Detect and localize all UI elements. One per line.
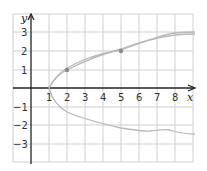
x-tick: 7 (154, 92, 160, 103)
upper-curve-a (49, 32, 195, 88)
graph: 1 2 3 4 5 6 7 8 3 2 1 −1 −2 −3 y x (0, 0, 207, 171)
y-axis-label: y (20, 12, 28, 25)
curves (49, 32, 195, 134)
point-2-1 (65, 68, 69, 72)
y-tick: −2 (13, 120, 28, 131)
x-tick-labels: 1 2 3 4 5 6 7 8 (46, 92, 178, 103)
x-tick: 2 (64, 92, 70, 103)
y-tick: 3 (21, 27, 27, 38)
x-tick: 5 (118, 92, 124, 103)
y-tick: 1 (21, 65, 27, 76)
x-axis-label: x (187, 91, 194, 104)
x-tick: 6 (136, 92, 142, 103)
x-tick: 3 (82, 92, 88, 103)
x-tick: 8 (172, 92, 178, 103)
y-tick: −3 (13, 139, 28, 150)
y-tick: 2 (21, 46, 27, 57)
data-points (65, 49, 123, 72)
y-tick: −1 (13, 102, 28, 113)
x-tick: 1 (46, 92, 52, 103)
point-5-2 (119, 49, 123, 53)
upper-curve-b (49, 34, 195, 88)
x-tick: 4 (100, 92, 106, 103)
